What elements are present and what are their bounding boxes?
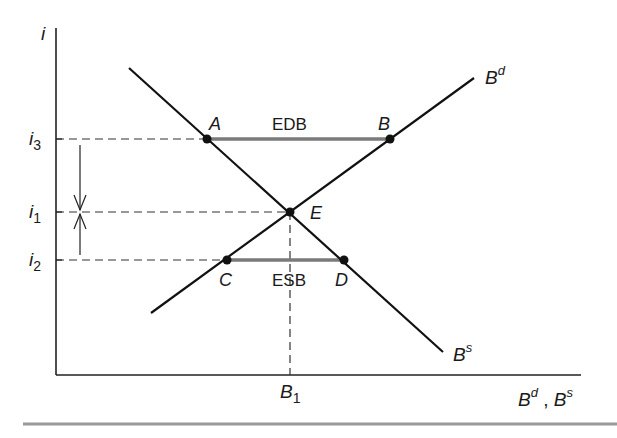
bond-market-diagram: i i3 i1 i2 A B E C D EDB ESB Bd Bs B1 Bd… [0,0,617,438]
point-c-label: C [219,270,233,290]
x-axis-label: Bd , Bs [518,385,573,410]
y-axis-label: i [41,23,46,44]
demand-curve [151,78,474,313]
point-e [286,208,295,217]
point-b [386,135,395,144]
edb-label: EDB [272,115,307,134]
demand-curve-label: Bd [485,63,506,88]
i3-label: i3 [29,128,41,153]
esb-label: ESB [272,271,306,290]
i2-label: i2 [29,249,41,274]
point-d [340,256,349,265]
point-d-label: D [335,270,348,290]
i1-label: i1 [29,201,41,226]
point-a-label: A [208,114,221,134]
point-c [223,256,232,265]
point-a [203,135,212,144]
point-b-label: B [378,114,390,134]
supply-curve-label: Bs [453,340,473,365]
b1-label: B1 [280,381,301,406]
convergence-arrows [74,145,86,255]
point-e-label: E [310,203,323,223]
